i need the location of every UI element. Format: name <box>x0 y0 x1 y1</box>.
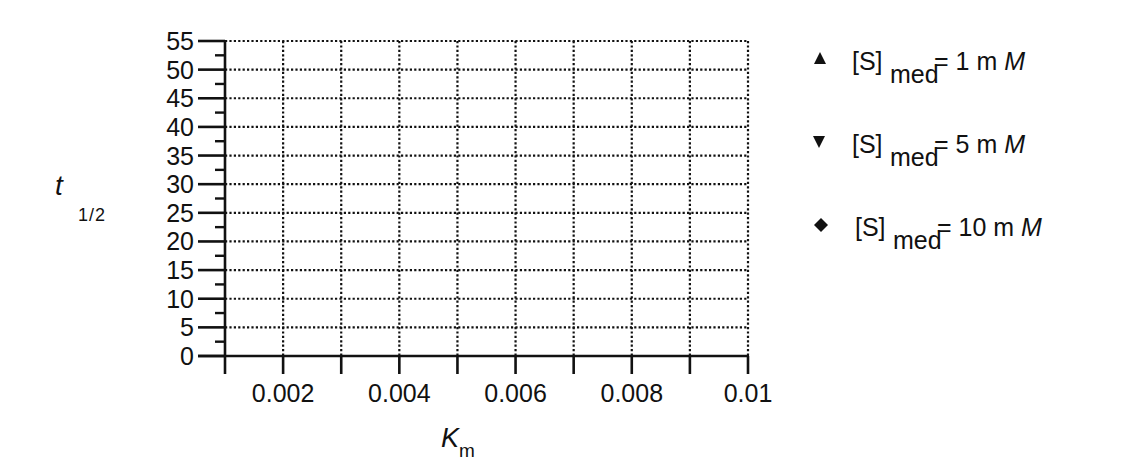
axes <box>198 41 749 356</box>
x-tick-label: 0.006 <box>484 379 547 407</box>
y-tick-label: 40 <box>166 113 194 141</box>
x-title-main: K <box>441 423 460 453</box>
legend-label-subscript: med <box>890 143 939 171</box>
legend-label-value: = 5 m M <box>934 130 1025 158</box>
y-tick-label: 10 <box>166 285 194 313</box>
y-title-main: t <box>55 170 64 201</box>
y-tick-label: 20 <box>166 227 194 255</box>
legend: [S]med= 1 m M[S]med= 5 m M[S]med= 10 m M <box>813 47 1042 254</box>
x-tick-label: 0.008 <box>600 379 663 407</box>
y-tick-label: 25 <box>166 199 194 227</box>
y-tick-label: 45 <box>166 84 194 112</box>
x-tick-label: 0.01 <box>724 379 773 407</box>
y-tick-label: 50 <box>166 56 194 84</box>
y-tick-label: 30 <box>166 170 194 198</box>
grid-lines <box>225 41 748 356</box>
x-axis-title: Km <box>441 423 475 461</box>
y-tick-label: 55 <box>166 27 194 55</box>
diamond-marker-icon <box>814 218 828 232</box>
legend-label-subscript: med <box>890 60 939 88</box>
y-title-subscript: 1/2 <box>78 205 106 225</box>
legend-label-value: = 10 m M <box>937 213 1042 241</box>
legend-label-main: [S] <box>855 213 886 241</box>
y-tick-label: 15 <box>166 256 194 284</box>
legend-label-main: [S] <box>852 47 883 75</box>
legend-item: [S]med= 1 m M <box>814 47 1025 88</box>
y-axis-ticks: 0510152025303540455055 <box>166 27 225 370</box>
legend-label-value: = 1 m M <box>934 47 1025 75</box>
legend-label-main: [S] <box>852 130 883 158</box>
y-tick-label: 35 <box>166 142 194 170</box>
y-axis-title: t1/2 <box>55 170 106 225</box>
triangle-down-marker-icon <box>813 136 825 148</box>
chart: 0510152025303540455055 0.0020.0040.0060.… <box>0 0 1135 472</box>
triangle-up-marker-icon <box>814 52 826 64</box>
x-tick-label: 0.002 <box>252 379 315 407</box>
y-tick-label: 5 <box>180 313 194 341</box>
y-tick-label: 0 <box>180 342 194 370</box>
x-title-subscript: m <box>459 440 475 461</box>
x-axis-ticks: 0.0020.0040.0060.0080.01 <box>225 356 772 407</box>
legend-item: [S]med= 10 m M <box>814 213 1042 254</box>
legend-label-subscript: med <box>893 226 942 254</box>
x-tick-label: 0.004 <box>368 379 431 407</box>
legend-item: [S]med= 5 m M <box>813 130 1025 171</box>
